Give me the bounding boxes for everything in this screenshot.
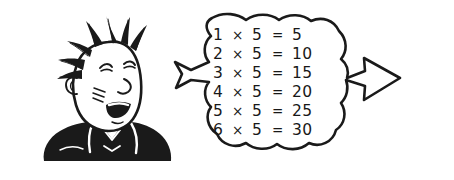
row-operator: × [232, 84, 243, 100]
row-equals: = [272, 46, 283, 62]
row-operator: × [232, 27, 243, 43]
row-operator: × [232, 103, 243, 119]
speech-bubble [175, 14, 400, 149]
row-multiplicand: 3 [213, 64, 223, 82]
row-equals: = [272, 84, 283, 100]
row-equals: = [272, 65, 283, 81]
row-multiplier: 5 [252, 26, 262, 44]
row-equals: = [272, 103, 283, 119]
illustration-canvas: 1 × 5 = 5 2 × 5 = 10 3 × 5 = 15 4 [0, 0, 454, 180]
row-product: 25 [292, 102, 313, 120]
row-product: 30 [292, 121, 313, 139]
row-equals: = [272, 27, 283, 43]
row-operator: × [232, 122, 243, 138]
row-product: 5 [292, 26, 302, 44]
row-multiplicand: 2 [213, 45, 223, 63]
row-multiplicand: 4 [213, 83, 223, 101]
row-product: 10 [292, 45, 313, 63]
row-multiplicand: 6 [213, 121, 223, 139]
character-figure [44, 16, 172, 161]
row-operator: × [232, 46, 243, 62]
row-product: 15 [292, 64, 313, 82]
row-multiplier: 5 [252, 83, 262, 101]
row-multiplier: 5 [252, 45, 262, 63]
row-operator: × [232, 65, 243, 81]
row-multiplier: 5 [252, 102, 262, 120]
row-multiplier: 5 [252, 64, 262, 82]
row-multiplicand: 1 [213, 26, 223, 44]
row-equals: = [272, 122, 283, 138]
row-multiplier: 5 [252, 121, 262, 139]
row-multiplicand: 5 [213, 102, 223, 120]
row-product: 20 [292, 83, 313, 101]
